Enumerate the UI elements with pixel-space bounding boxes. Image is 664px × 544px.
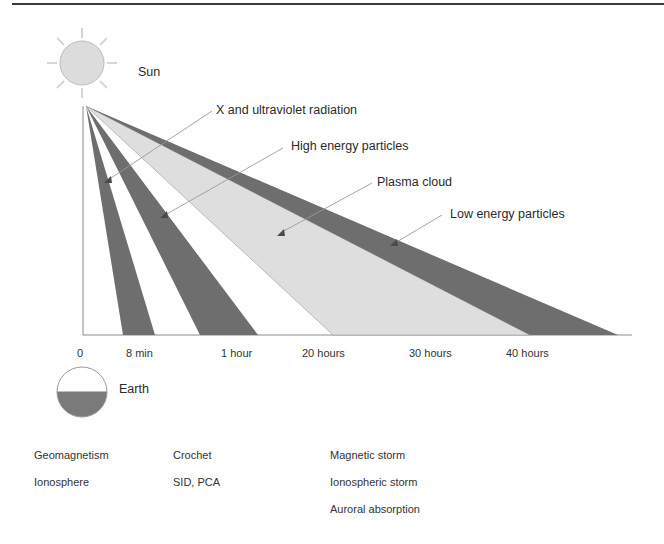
- effect-crochet: Crochet: [173, 450, 212, 461]
- effect-auroral-absorption: Auroral absorption: [330, 504, 420, 515]
- emission-label-high-energy: High energy particles: [291, 140, 408, 153]
- effect-magnetic-storm: Magnetic storm: [330, 450, 405, 461]
- effect-ionospheric-storm: Ionospheric storm: [330, 477, 417, 488]
- tick-label-1hour: 1 hour: [221, 348, 252, 359]
- earth-label: Earth: [119, 383, 149, 396]
- effect-ionosphere: Ionosphere: [34, 477, 89, 488]
- tick-label-40hours: 40 hours: [506, 348, 549, 359]
- effect-geomagnetism: Geomagnetism: [34, 450, 109, 461]
- tick-label-30hours: 30 hours: [409, 348, 452, 359]
- solar-emission-diagram: [0, 0, 664, 544]
- low-energy-leader-line: [395, 215, 442, 243]
- tick-label-8min: 8 min: [126, 348, 153, 359]
- emission-label-x-uv: X and ultraviolet radiation: [216, 104, 357, 117]
- earth-icon: [57, 367, 107, 417]
- effect-sid-pca: SID, PCA: [173, 477, 220, 488]
- tick-label-20hours: 20 hours: [302, 348, 345, 359]
- emission-label-low-energy: Low energy particles: [450, 208, 565, 221]
- sun-label: Sun: [138, 66, 160, 79]
- tick-label-0: 0: [77, 348, 83, 359]
- emission-label-plasma: Plasma cloud: [377, 176, 452, 189]
- sun-icon: [47, 28, 117, 98]
